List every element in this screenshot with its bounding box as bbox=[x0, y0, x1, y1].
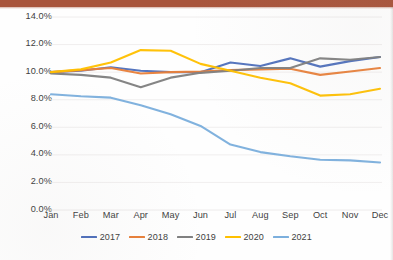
x-tick-label-jan: Jan bbox=[34, 210, 68, 220]
line-chart: 0.0%2.0%4.0%6.0%8.0%10.0%12.0%14.0% JanF… bbox=[0, 7, 393, 260]
x-tick-label-oct: Oct bbox=[303, 210, 337, 220]
series-lines bbox=[51, 50, 380, 162]
legend-label-2018: 2018 bbox=[148, 232, 168, 242]
x-tick-label-aug: Aug bbox=[243, 210, 277, 220]
legend-swatch-2017 bbox=[81, 236, 97, 238]
chart-page: 0.0%2.0%4.0%6.0%8.0%10.0%12.0%14.0% JanF… bbox=[0, 0, 393, 260]
x-tick-label-apr: Apr bbox=[124, 210, 158, 220]
legend-swatch-2021 bbox=[273, 236, 289, 238]
series-line-2021[interactable] bbox=[51, 94, 380, 162]
gridlines bbox=[51, 17, 382, 210]
plot-canvas bbox=[0, 7, 393, 260]
legend-label-2021: 2021 bbox=[291, 232, 311, 242]
x-tick-label-nov: Nov bbox=[333, 210, 367, 220]
legend-item-2017[interactable]: 2017 bbox=[81, 232, 120, 242]
x-tick-label-jul: Jul bbox=[213, 210, 247, 220]
x-tick-label-sep: Sep bbox=[273, 210, 307, 220]
legend-item-2020[interactable]: 2020 bbox=[225, 232, 264, 242]
x-tick-label-dec: Dec bbox=[363, 210, 393, 220]
x-tick-label-may: May bbox=[154, 210, 188, 220]
legend-label-2019: 2019 bbox=[196, 232, 216, 242]
legend-item-2018[interactable]: 2018 bbox=[129, 232, 168, 242]
x-tick-label-feb: Feb bbox=[64, 210, 98, 220]
legend-swatch-2020 bbox=[225, 236, 241, 238]
x-tick-label-jun: Jun bbox=[184, 210, 218, 220]
legend-item-2019[interactable]: 2019 bbox=[177, 232, 216, 242]
x-tick-label-mar: Mar bbox=[94, 210, 128, 220]
legend-label-2017: 2017 bbox=[100, 232, 120, 242]
legend-item-2021[interactable]: 2021 bbox=[273, 232, 312, 242]
legend-swatch-2019 bbox=[177, 236, 193, 238]
legend-swatch-2018 bbox=[129, 236, 145, 238]
legend-label-2020: 2020 bbox=[243, 232, 263, 242]
chart-legend: 20172018201920202021 bbox=[0, 232, 393, 242]
top-decorative-bar bbox=[0, 0, 393, 7]
